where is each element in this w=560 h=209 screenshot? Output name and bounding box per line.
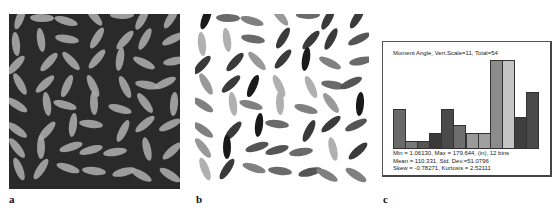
rice-grain [11, 71, 30, 96]
rice-grain-shaded [216, 14, 240, 22]
panel-label-a: a [9, 193, 15, 205]
rice-grain [87, 26, 106, 51]
rice-grain-shaded [339, 74, 364, 92]
rice-grain-shaded [343, 116, 368, 134]
rice-grain-shaded [347, 14, 366, 30]
rice-grain [162, 54, 180, 66]
rice-grain [114, 28, 136, 51]
rice-grain [52, 98, 77, 112]
rice-grain-shaded [347, 140, 369, 162]
rice-grain-shaded [355, 92, 365, 117]
rice-grain [55, 161, 80, 176]
rice-grain [134, 91, 155, 115]
rice-grain [82, 166, 107, 177]
orientation-coded-grains [195, 14, 369, 186]
rice-grain-shaded [344, 165, 369, 185]
rice-grain-shaded [239, 14, 264, 28]
rice-grain-shaded [197, 71, 216, 96]
rice-grain [160, 30, 180, 48]
rice-grain-shaded [195, 119, 215, 139]
rice-grain [114, 46, 125, 71]
rice-grain-shaded [254, 113, 265, 138]
rice-grain-shaded [195, 136, 214, 160]
rice-grain-shaded [195, 95, 215, 115]
rice-grains-photo [9, 14, 180, 189]
rice-grain [129, 166, 154, 185]
rice-grain [9, 95, 29, 115]
rice-grain-shaded [264, 119, 289, 130]
rice-grain [78, 119, 103, 130]
rice-grain-shaded [217, 156, 237, 180]
rice-grain-shaded [238, 98, 263, 112]
rice-grain [12, 14, 28, 31]
rice-grain [31, 156, 51, 180]
rice-grain [114, 118, 132, 143]
rice-grain-shaded [245, 73, 262, 98]
rice-grain [169, 92, 179, 117]
rice-grain [116, 75, 133, 100]
rice-grain [9, 136, 28, 160]
rice-grain [11, 156, 27, 181]
rice-grain-shaded [318, 55, 343, 73]
rice-grain [42, 92, 53, 117]
rice-grain [136, 26, 154, 51]
rice-grain-shaded [346, 30, 369, 48]
histogram-bars [393, 42, 538, 149]
rice-grain-shaded [293, 102, 318, 116]
rice-grain-shaded [289, 146, 314, 158]
rice-grain [103, 146, 128, 158]
rice-grain [158, 165, 180, 185]
rice-grain-shaded [195, 54, 213, 77]
rice-grain [9, 54, 27, 77]
rice-grain-shaded [319, 114, 343, 135]
rice-grain-shaded [196, 31, 206, 56]
rice-grain-shaded [320, 91, 341, 115]
rice-grain-shaded [300, 46, 311, 71]
rice-grain [110, 14, 134, 19]
rice-grain-shaded [198, 14, 214, 31]
rice-grain-shaded [327, 136, 340, 161]
rice-grain [83, 14, 104, 28]
rice-grain [161, 14, 180, 30]
rice-grain-shaded [223, 135, 231, 159]
rice-grain [38, 50, 60, 73]
rice-grain-shaded [268, 166, 293, 177]
rice-grain-shaded [296, 14, 320, 19]
rice-grain-shaded [273, 26, 292, 51]
rice-grain-shaded [300, 28, 322, 51]
rice-grain-shaded [302, 75, 319, 100]
rice-grain-shaded [300, 118, 318, 143]
stats-min-max: Min = 1.06130, Max = 179.644, (in), 12 b… [393, 150, 509, 158]
rice-grain-shaded [348, 54, 369, 66]
rice-grain [157, 116, 180, 134]
histogram-window: Moment Angle, Vert.Scale=11, Total=54 Mi… [382, 41, 552, 177]
rice-grain [30, 14, 54, 22]
rice-grain-shaded [197, 156, 213, 181]
rice-grain [53, 14, 78, 28]
rice-grain-shaded [315, 166, 340, 185]
rice-grain [59, 73, 76, 98]
rice-grain-shaded [272, 47, 294, 70]
rice-grain [54, 34, 79, 46]
histogram-bar [526, 92, 539, 149]
rice-grain [161, 140, 180, 162]
rice-grain-shaded [228, 92, 239, 117]
rice-grain-shaded [222, 27, 233, 52]
stats-skew-kurtosis: Skew = -0.78271, Kurtosis = 2.52111 [393, 165, 509, 173]
rice-grain [107, 102, 132, 116]
rice-grain-shaded [269, 14, 290, 28]
rice-grain [86, 47, 108, 70]
rice-grain [60, 50, 82, 73]
rice-grain [133, 114, 157, 135]
panel-label-c: c [383, 193, 388, 205]
rice-grain [68, 113, 79, 138]
rice-grain [132, 55, 157, 73]
rice-grain [36, 27, 47, 52]
rice-grain [141, 136, 154, 161]
rice-grain-shaded [224, 50, 246, 73]
rice-grain-shaded [322, 26, 340, 51]
rice-grain [153, 74, 178, 92]
rice-grain-shaded [241, 161, 266, 176]
stats-mean-std: Mean = 110.331, Std. Dev.=51.0796 [393, 158, 509, 166]
panel-label-b: b [196, 193, 202, 205]
